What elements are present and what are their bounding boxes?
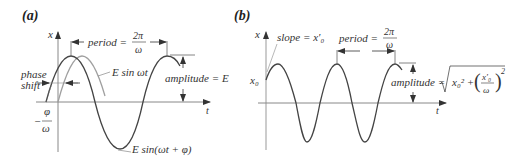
period-numerator: 2π xyxy=(133,30,144,41)
x-axis-label: t xyxy=(436,105,439,116)
shifted-leader xyxy=(118,150,131,152)
amplitude-label: amplitude = xyxy=(391,76,445,88)
x0-tick-label: x₀ xyxy=(249,74,259,86)
y-axis-label: x xyxy=(47,28,53,40)
offset-numerator: φ xyxy=(44,105,50,117)
panel-a: (a) x t E sin ωt E sin(ωt + φ) period = … xyxy=(20,8,229,156)
offset-sign: − xyxy=(34,115,41,127)
offset-denominator: ω xyxy=(42,122,50,134)
period-numerator: 2π xyxy=(384,26,395,37)
figure-canvas: (a) x t E sin ωt E sin(ωt + φ) period = … xyxy=(0,0,506,167)
amplitude-frac-denominator: ω xyxy=(483,85,489,95)
reference-leader xyxy=(98,72,110,76)
left-paren: ( xyxy=(474,70,481,93)
shifted-curve-label: E sin(ωt + φ) xyxy=(131,143,192,156)
panel-b-label: (b) xyxy=(234,8,250,24)
panel-b: (b) x t x₀ slope = x′₀ period = 2π ω amp… xyxy=(234,8,505,150)
panel-a-label: (a) xyxy=(22,8,38,24)
period-label: period = xyxy=(338,32,378,44)
amplitude-label: amplitude = E xyxy=(165,72,229,84)
slope-label: slope = x′₀ xyxy=(277,31,324,43)
period-denominator: ω xyxy=(386,39,393,50)
reference-curve-label: E sin ωt xyxy=(111,66,149,78)
x-axis-label: t xyxy=(206,105,209,116)
amplitude-formula-term: x₀² + xyxy=(451,76,474,88)
period-denominator: ω xyxy=(135,44,142,55)
amplitude-frac-numerator: x′₀ xyxy=(481,72,491,82)
amplitude-exponent: 2 xyxy=(501,67,505,76)
y-axis-label: x xyxy=(254,28,260,40)
phase-shift-label-line2: shift xyxy=(21,79,41,91)
period-label: period = xyxy=(87,36,127,48)
